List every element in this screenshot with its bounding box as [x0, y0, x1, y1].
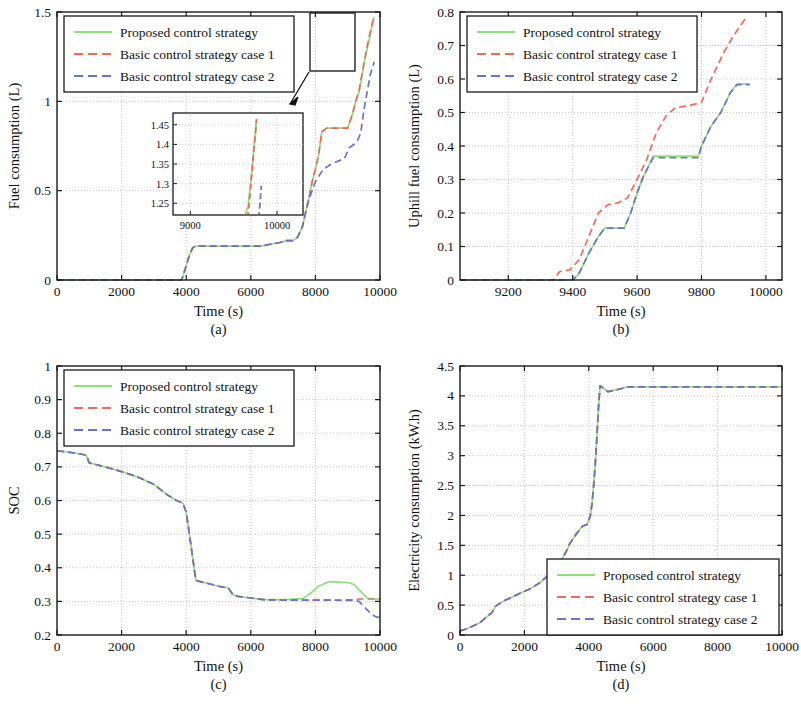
svg-text:4.5: 4.5 — [437, 359, 454, 374]
svg-text:10000: 10000 — [749, 284, 783, 299]
svg-text:10000: 10000 — [765, 639, 799, 654]
legend: Proposed control strategyBasic control s… — [467, 16, 697, 92]
svg-text:1.25: 1.25 — [151, 198, 169, 209]
panel-c: 02000400060008000100000.20.30.40.50.60.7… — [0, 354, 400, 707]
series-line-basic-control-strategy-case-1 — [57, 451, 380, 600]
legend-label-case1: Basic control strategy case 1 — [120, 47, 274, 62]
x-axis-label: Time (s) — [596, 658, 645, 675]
inset-axes: 1.251.31.351.41.45900010000 — [151, 113, 303, 231]
svg-text:0.9: 0.9 — [34, 392, 51, 407]
svg-text:0: 0 — [44, 273, 51, 288]
svg-text:8000: 8000 — [704, 639, 731, 654]
panel-d: 020004000600080001000000.511.522.533.544… — [400, 354, 801, 707]
svg-text:9400: 9400 — [559, 284, 586, 299]
y-axis-label: Fuel consumption (L) — [6, 83, 23, 210]
svg-text:4000: 4000 — [173, 284, 200, 299]
svg-text:3.5: 3.5 — [437, 418, 454, 433]
svg-text:2000: 2000 — [108, 284, 135, 299]
svg-text:8000: 8000 — [302, 284, 329, 299]
svg-text:10000: 10000 — [363, 639, 397, 654]
svg-text:4000: 4000 — [173, 639, 200, 654]
legend-label-proposed: Proposed control strategy — [603, 568, 741, 583]
svg-text:1: 1 — [447, 568, 454, 583]
svg-text:0.6: 0.6 — [437, 72, 454, 87]
panel-b-plot: 92009400960098001000000.10.20.30.40.50.6… — [400, 0, 801, 354]
legend-label-case1: Basic control strategy case 1 — [603, 590, 757, 605]
legend-label-proposed: Proposed control strategy — [120, 25, 258, 40]
svg-text:9800: 9800 — [688, 284, 715, 299]
svg-text:2000: 2000 — [108, 639, 135, 654]
panel-a: 020004000600080001000000.511.5Time (s)Fu… — [0, 0, 400, 354]
svg-text:0: 0 — [447, 273, 454, 288]
svg-text:4: 4 — [447, 388, 454, 403]
svg-text:3: 3 — [447, 448, 454, 463]
svg-text:9200: 9200 — [495, 284, 522, 299]
panel-caption: (c) — [210, 676, 226, 693]
svg-text:10000: 10000 — [363, 284, 397, 299]
svg-text:0.2: 0.2 — [437, 206, 454, 221]
svg-text:0.4: 0.4 — [437, 139, 454, 154]
svg-text:1.45: 1.45 — [151, 120, 169, 131]
svg-text:6000: 6000 — [237, 639, 264, 654]
x-axis-label: Time (s) — [596, 303, 645, 320]
legend-label-proposed: Proposed control strategy — [120, 379, 258, 394]
svg-text:1.5: 1.5 — [437, 538, 454, 553]
svg-text:0.8: 0.8 — [437, 5, 454, 20]
legend: Proposed control strategyBasic control s… — [64, 16, 294, 92]
svg-text:2: 2 — [447, 508, 454, 523]
svg-text:0.5: 0.5 — [437, 105, 454, 120]
svg-text:0.5: 0.5 — [34, 527, 51, 542]
legend-label-case2: Basic control strategy case 2 — [120, 423, 274, 438]
panel-caption: (d) — [613, 676, 630, 693]
series-line-proposed-control-strategy — [57, 451, 380, 600]
y-axis-label: Uphill fuel consumption (L) — [406, 64, 423, 228]
legend-label-case2: Basic control strategy case 2 — [603, 612, 757, 627]
svg-text:9600: 9600 — [624, 284, 651, 299]
svg-text:8000: 8000 — [302, 639, 329, 654]
svg-text:0.2: 0.2 — [34, 628, 51, 643]
svg-text:0.1: 0.1 — [437, 239, 454, 254]
svg-text:0: 0 — [54, 284, 61, 299]
svg-text:10000: 10000 — [264, 220, 290, 231]
x-axis-label: Time (s) — [194, 303, 243, 320]
panel-caption: (b) — [613, 321, 630, 338]
legend-label-case1: Basic control strategy case 1 — [523, 47, 677, 62]
svg-text:1.4: 1.4 — [156, 139, 170, 150]
legend: Proposed control strategyBasic control s… — [547, 559, 779, 635]
svg-text:1.3: 1.3 — [156, 179, 169, 190]
legend-label-case2: Basic control strategy case 2 — [523, 69, 677, 84]
y-axis-label: Electricity consumption (kW.h) — [406, 409, 423, 592]
x-axis-label: Time (s) — [194, 658, 243, 675]
svg-text:6000: 6000 — [640, 639, 667, 654]
svg-text:1.5: 1.5 — [34, 5, 51, 20]
series-line-proposed-control-strategy — [460, 84, 750, 280]
legend-label-proposed: Proposed control strategy — [523, 25, 661, 40]
svg-text:0.3: 0.3 — [34, 594, 51, 609]
svg-text:0.7: 0.7 — [34, 459, 51, 474]
svg-text:0: 0 — [447, 628, 454, 643]
svg-text:1: 1 — [44, 94, 51, 109]
legend-label-case2: Basic control strategy case 2 — [120, 69, 274, 84]
legend: Proposed control strategyBasic control s… — [64, 370, 294, 446]
svg-text:0: 0 — [457, 639, 464, 654]
svg-text:0.3: 0.3 — [437, 172, 454, 187]
svg-text:6000: 6000 — [237, 284, 264, 299]
svg-text:1: 1 — [44, 359, 51, 374]
figure-grid: 020004000600080001000000.511.5Time (s)Fu… — [0, 0, 801, 707]
panel-d-plot: 020004000600080001000000.511.522.533.544… — [400, 354, 801, 707]
svg-text:1.35: 1.35 — [151, 159, 169, 170]
panel-b: 92009400960098001000000.10.20.30.40.50.6… — [400, 0, 801, 354]
y-axis-label: SOC — [6, 486, 22, 514]
svg-text:0.4: 0.4 — [34, 560, 51, 575]
zoom-highlight — [290, 13, 355, 105]
svg-text:0: 0 — [54, 639, 61, 654]
panel-caption: (a) — [210, 321, 226, 338]
svg-text:0.6: 0.6 — [34, 493, 51, 508]
svg-text:0.8: 0.8 — [34, 426, 51, 441]
legend-label-case1: Basic control strategy case 1 — [120, 401, 274, 416]
svg-text:0.7: 0.7 — [437, 38, 454, 53]
svg-text:0.5: 0.5 — [34, 183, 51, 198]
svg-text:2.5: 2.5 — [437, 478, 454, 493]
panel-a-plot: 020004000600080001000000.511.5Time (s)Fu… — [0, 0, 400, 354]
svg-text:9000: 9000 — [180, 220, 201, 231]
